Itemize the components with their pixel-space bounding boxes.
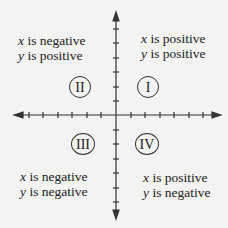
- quadrant-ii-badge: II: [69, 76, 91, 98]
- q1-x-label: x is positive: [141, 31, 206, 46]
- quadrant-iv-badge: IV: [135, 133, 159, 155]
- q3-y-label: y is negative: [20, 184, 87, 199]
- quadrant-iii-badge: III: [71, 133, 95, 155]
- x-axis-left-arrow-icon: [14, 112, 23, 118]
- quadrant-i-badge: I: [137, 76, 159, 98]
- q4-y-label: y is negative: [143, 185, 210, 200]
- q2-x-label: x is negative: [18, 33, 85, 48]
- x-axis-right-arrow-icon: [212, 112, 221, 118]
- q4-x-label: x is positive: [143, 170, 208, 185]
- q2-y-label: y is positive: [18, 48, 83, 63]
- q3-x-label: x is negative: [20, 169, 87, 184]
- q1-y-label: y is positive: [141, 46, 206, 61]
- y-axis-down-arrow-icon: [113, 210, 119, 219]
- y-axis-up-arrow-icon: [113, 12, 119, 21]
